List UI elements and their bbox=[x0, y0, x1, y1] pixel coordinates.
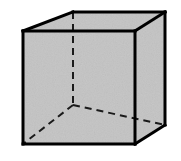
cube-figure bbox=[0, 0, 181, 161]
cube-drawing bbox=[0, 0, 181, 161]
